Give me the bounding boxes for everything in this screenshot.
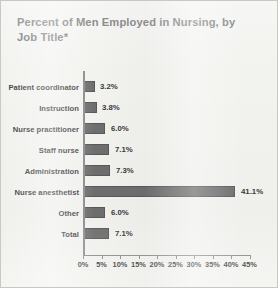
x-axis-tick — [157, 255, 158, 259]
bar-row: Patient coordinator 3.2% — [1, 79, 278, 95]
bar — [83, 144, 109, 155]
x-axis-tick-label: 0% — [78, 260, 89, 269]
chart-title: Percent of Men Employed in Nursing, by J… — [17, 15, 255, 45]
x-axis-tick — [139, 255, 140, 259]
bar-row: Other 6.0% — [1, 205, 278, 221]
bar — [83, 228, 109, 239]
x-axis-tick-label: 30% — [187, 260, 202, 269]
x-axis-tick — [102, 255, 103, 259]
x-axis-tick — [231, 255, 232, 259]
bar-row: Total 7.1% — [1, 226, 278, 242]
bar — [83, 123, 105, 134]
x-axis-tick-label: 20% — [150, 260, 165, 269]
x-axis-line — [83, 255, 251, 256]
x-axis-tick-label: 25% — [168, 260, 183, 269]
bar-value-label: 3.8% — [102, 103, 120, 112]
x-axis-tick-label: 15% — [131, 260, 146, 269]
bar-value-label: 6.0% — [111, 208, 129, 217]
bar — [83, 81, 95, 92]
x-axis-tick — [194, 255, 195, 259]
x-axis-tick — [83, 255, 84, 259]
bar-value-label: 6.0% — [111, 124, 129, 133]
category-label: Staff nurse — [7, 146, 79, 155]
bar — [83, 207, 105, 218]
category-label: Nurse practitioner — [7, 125, 79, 134]
category-label: Nurse anesthetist — [7, 188, 79, 197]
bar-row: Instruction 3.8% — [1, 100, 278, 116]
bar-row: Administration 7.3% — [1, 163, 278, 179]
bar-value-label: 41.1% — [241, 187, 263, 196]
bar — [83, 186, 235, 197]
y-axis-line — [83, 71, 85, 256]
bar-row: Nurse practitioner 6.0% — [1, 121, 278, 137]
category-label: Patient coordinator — [7, 83, 79, 92]
x-axis-tick — [120, 255, 121, 259]
category-label: Administration — [7, 167, 79, 176]
x-axis-tick-label: 40% — [224, 260, 239, 269]
plot-area: Patient coordinator 3.2% Instruction 3.8… — [1, 71, 278, 256]
bar-value-label: 3.2% — [100, 82, 118, 91]
bar-row: Staff nurse 7.1% — [1, 142, 278, 158]
category-label: Total — [7, 230, 79, 239]
x-axis-tick-label: 45% — [242, 260, 257, 269]
x-axis-tick-label: 35% — [205, 260, 220, 269]
bar-value-label: 7.1% — [115, 229, 133, 238]
x-axis-tick — [213, 255, 214, 259]
x-axis-tick-label: 5% — [96, 260, 107, 269]
bar-value-label: 7.3% — [116, 166, 134, 175]
category-label: Instruction — [7, 104, 79, 113]
x-axis-tick-label: 10% — [113, 260, 128, 269]
bar-value-label: 7.1% — [115, 145, 133, 154]
chart-figure: Percent of Men Employed in Nursing, by J… — [0, 0, 278, 288]
bar — [83, 102, 97, 113]
bar — [83, 165, 110, 176]
x-axis-tick — [176, 255, 177, 259]
category-label: Other — [7, 209, 79, 218]
bar-row: Nurse anesthetist 41.1% — [1, 184, 278, 200]
x-axis-tick — [250, 255, 251, 259]
